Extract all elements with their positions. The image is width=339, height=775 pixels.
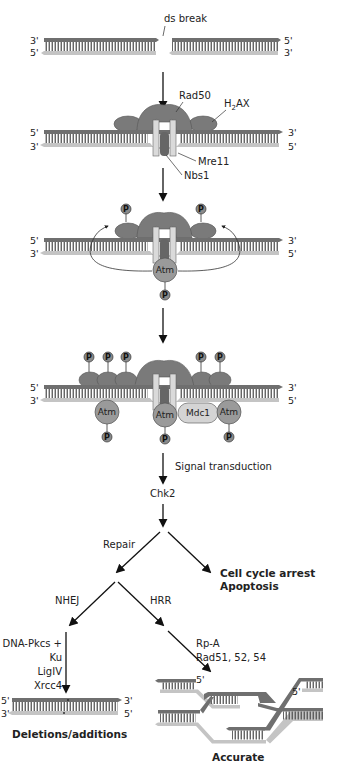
hrr-factor: Rp-A bbox=[196, 638, 220, 649]
svg-text:P: P bbox=[104, 433, 110, 442]
chk2-label: Chk2 bbox=[150, 488, 175, 499]
nbs1-protein bbox=[160, 132, 169, 156]
nhej-factor: DNA-Pkcs + bbox=[3, 638, 63, 649]
svg-text:P: P bbox=[105, 353, 111, 362]
hrr-factor: Rad51, 52, 54 bbox=[196, 652, 266, 663]
dna-left-fragment bbox=[41, 38, 159, 55]
end-label: 5' bbox=[288, 395, 297, 406]
end-label: 5' bbox=[1, 695, 10, 706]
svg-text:P: P bbox=[123, 205, 129, 214]
hrr-label: HRR bbox=[150, 595, 171, 606]
repair-label: Repair bbox=[103, 539, 136, 550]
svg-text:P: P bbox=[198, 353, 204, 362]
nhej-factor: Xrcc4 bbox=[34, 680, 62, 691]
rad50-protein bbox=[137, 104, 192, 131]
signal-transduction-label: Signal transduction bbox=[175, 461, 272, 472]
mdc1-label: Mdc1 bbox=[186, 408, 210, 418]
end-label: 3' bbox=[124, 695, 133, 706]
svg-text:Atm: Atm bbox=[156, 410, 174, 420]
end-label: 5' bbox=[284, 35, 293, 46]
apoptosis-label: Apoptosis bbox=[220, 580, 279, 592]
svg-text:P: P bbox=[226, 433, 232, 442]
mre11-protein bbox=[170, 120, 176, 156]
signaling-pathway: Signal transduction Chk2 Repair Cell cyc… bbox=[3, 453, 316, 692]
hrr-outcome: 5' 5' Accurate bbox=[155, 674, 323, 763]
mre11-label: Mre11 bbox=[198, 156, 229, 167]
end-label: 3' bbox=[288, 235, 297, 246]
end-label: 5' bbox=[288, 141, 297, 152]
end-label: 3' bbox=[284, 47, 293, 58]
svg-text:P: P bbox=[198, 205, 204, 214]
nhej-label: NHEJ bbox=[55, 595, 79, 606]
end-label: 3' bbox=[30, 395, 39, 406]
nhej-outcome: 5' 3' 3' 5' Deletions/additions bbox=[1, 695, 133, 740]
ds-break-label: ds break bbox=[164, 13, 207, 24]
rad50-label: Rad50 bbox=[179, 90, 211, 101]
end-label: 5' bbox=[30, 127, 39, 138]
svg-text:P: P bbox=[162, 291, 168, 300]
arrow-arrest-icon bbox=[168, 532, 210, 572]
five-prime-label: 5' bbox=[196, 674, 205, 685]
svg-text:P: P bbox=[217, 353, 223, 362]
end-label: 3' bbox=[288, 382, 297, 393]
h2ax-protein bbox=[189, 116, 217, 132]
end-label: 5' bbox=[124, 708, 133, 719]
end-label: 5' bbox=[288, 248, 297, 259]
svg-text:P: P bbox=[86, 353, 92, 362]
deletions-additions-label: Deletions/additions bbox=[12, 728, 127, 740]
arrow-repair-icon bbox=[117, 532, 160, 572]
end-label: 5' bbox=[30, 47, 39, 58]
dna-repair-diagram: ds break 3' 5' 5' 3' bbox=[0, 0, 339, 775]
stage-1-ds-break: ds break 3' 5' 5' 3' bbox=[30, 13, 293, 58]
svg-text:Atm: Atm bbox=[220, 407, 238, 417]
atm-label: Atm bbox=[156, 265, 174, 275]
dna-right-fragment bbox=[169, 38, 281, 55]
h2ax-label: H2AX bbox=[224, 98, 250, 112]
end-label: 5' bbox=[30, 382, 39, 393]
arrow-hrr-icon bbox=[168, 631, 210, 671]
svg-text:P: P bbox=[162, 435, 168, 444]
end-label: 3' bbox=[30, 35, 39, 46]
end-label: 5' bbox=[30, 235, 39, 246]
stage-3-atm-activation: P P Atm P 5' 3' 3' 5' bbox=[30, 204, 297, 300]
end-label: 3' bbox=[288, 127, 297, 138]
cell-cycle-arrest-label: Cell cycle arrest bbox=[220, 567, 315, 579]
stage-4-signal-amplification: P P P P P Mdc1 bbox=[30, 352, 297, 444]
svg-text:Atm: Atm bbox=[98, 407, 116, 417]
end-label: 3' bbox=[1, 708, 10, 719]
end-label: 3' bbox=[30, 248, 39, 259]
mre11-protein bbox=[153, 120, 159, 156]
nbs1-label: Nbs1 bbox=[184, 170, 209, 181]
end-label: 3' bbox=[30, 141, 39, 152]
nhej-factor: LigIV bbox=[38, 666, 63, 677]
nhej-factor: Ku bbox=[50, 652, 62, 663]
svg-text:P: P bbox=[123, 353, 129, 362]
five-prime-label: 5' bbox=[292, 686, 301, 697]
accurate-label: Accurate bbox=[212, 751, 264, 763]
